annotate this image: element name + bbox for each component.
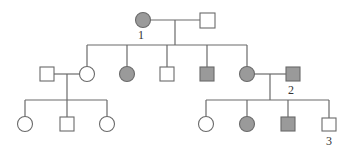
generation-3-left <box>18 100 115 132</box>
unaffected-male-3 <box>322 118 336 131</box>
label-1: 1 <box>138 28 144 42</box>
label-3: 3 <box>326 134 332 148</box>
affected-male-2 <box>286 67 300 81</box>
affected-female <box>240 67 255 82</box>
unaffected-female <box>199 117 214 132</box>
generation-2: 2 <box>40 67 300 101</box>
affected-female <box>240 117 255 132</box>
affected-male <box>281 117 295 131</box>
label-2: 2 <box>288 83 294 97</box>
affected-male <box>200 67 214 81</box>
unaffected-male <box>160 67 174 81</box>
affected-female-1 <box>136 13 151 28</box>
unaffected-female <box>80 67 95 82</box>
unaffected-male-spouse <box>40 67 54 81</box>
unaffected-female <box>100 117 115 132</box>
unaffected-female <box>18 117 33 132</box>
pedigree-chart: 1 2 3 <box>0 0 355 154</box>
generation-1: 1 <box>136 13 216 46</box>
unaffected-male <box>60 117 74 131</box>
affected-female <box>120 67 135 82</box>
generation-3-right: 3 <box>199 100 337 148</box>
unaffected-male-gen1 <box>200 13 215 28</box>
